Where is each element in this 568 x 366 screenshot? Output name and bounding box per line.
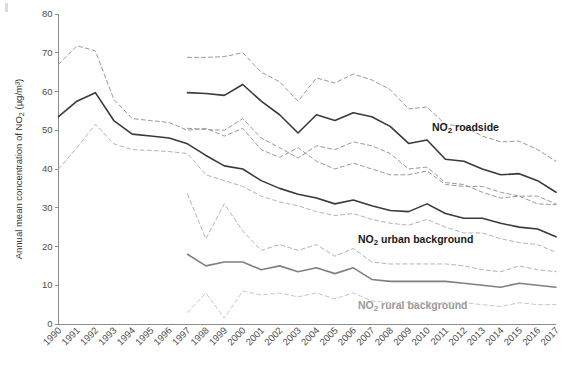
- x-tick-label-group: 2003: [280, 325, 303, 348]
- x-tick-label-group: 2016: [520, 325, 543, 348]
- series-line-no2-roadside-upper: [187, 53, 556, 162]
- x-tick-label-group: 2011: [428, 325, 450, 347]
- x-tick-label: 1990: [41, 325, 64, 348]
- x-tick-label-group: 2017: [538, 325, 561, 348]
- x-tick-label-group: 2004: [299, 325, 322, 348]
- x-tick-label-group: 2008: [372, 325, 395, 348]
- series-line-no2-urban-background-lower: [59, 124, 557, 252]
- series-line-no2-urban-background: [59, 93, 557, 237]
- x-tick-label-group: 2006: [336, 325, 359, 348]
- y-tick-label: 70: [42, 47, 53, 58]
- x-tick-label-group: 1993: [96, 325, 119, 348]
- x-tick-label-group: 2013: [464, 325, 487, 348]
- x-tick-label-group: 1998: [188, 325, 211, 348]
- x-tick-label: 1994: [114, 325, 137, 348]
- x-tick-label: 2011: [428, 325, 450, 347]
- y-tick-label: 80: [42, 8, 53, 19]
- x-tick-label: 2009: [391, 325, 414, 348]
- series-label-roadside: NO2 roadside: [432, 121, 499, 135]
- y-tick-label: 40: [42, 163, 53, 174]
- x-tick-label-group: 1999: [207, 325, 230, 348]
- x-tick-label-group: 2010: [409, 325, 432, 348]
- x-tick-label: 1991: [59, 325, 82, 348]
- y-tick-label: 10: [42, 279, 53, 290]
- x-tick-label: 2001: [243, 325, 266, 348]
- x-tick-label-group: 1990: [41, 325, 64, 348]
- x-tick-label: 2014: [483, 325, 506, 348]
- y-tick-label: 50: [42, 124, 53, 135]
- x-tick-label-group: 2000: [225, 325, 248, 348]
- chart-container: NO2 roadsideNO2 urban backgroundNO2 rura…: [0, 0, 568, 366]
- x-tick-label-group: 1995: [133, 325, 156, 348]
- y-tick-label: 60: [42, 86, 53, 97]
- x-tick-label: 2002: [262, 325, 285, 348]
- x-tick-label: 2008: [372, 325, 395, 348]
- x-tick-label: 1995: [133, 325, 156, 348]
- x-tick-label-group: 2015: [501, 325, 524, 348]
- x-tick-label: 2007: [354, 325, 377, 348]
- x-tick-label: 2004: [299, 325, 322, 348]
- x-tick-label-group: 1997: [170, 325, 193, 348]
- x-tick-label: 2015: [501, 325, 524, 348]
- x-tick-label: 1993: [96, 325, 119, 348]
- x-tick-label-group: 2007: [354, 325, 377, 348]
- series-layer: [59, 46, 557, 318]
- series-line-no2-roadside: [187, 85, 556, 193]
- x-tick-label: 1999: [207, 325, 230, 348]
- x-tick-label-group: 2002: [262, 325, 285, 348]
- x-tick-label: 1992: [78, 325, 101, 348]
- x-tick-label-group: 1991: [59, 325, 82, 348]
- x-tick-label-group: 2005: [317, 325, 340, 348]
- x-tick-label: 2006: [336, 325, 359, 348]
- axis-title-layer: Annual mean concentration of NO2 (µg/m³): [13, 79, 26, 260]
- x-tick-label-group: 2014: [483, 325, 506, 348]
- corner-artifact: [5, 3, 8, 12]
- y-axis-title: Annual mean concentration of NO2 (µg/m³): [13, 79, 26, 260]
- x-tick-label: 2012: [446, 325, 469, 348]
- no2-concentration-line-chart: NO2 roadsideNO2 urban backgroundNO2 rura…: [0, 0, 568, 366]
- x-tick-label-group: 1994: [114, 325, 137, 348]
- y-tick-label: 30: [42, 202, 53, 213]
- x-tick-label: 1998: [188, 325, 211, 348]
- x-tick-label-group: 2001: [243, 325, 266, 348]
- x-tick-label: 2017: [538, 325, 561, 348]
- x-tick-label: 2013: [464, 325, 487, 348]
- x-tick-label-group: 2012: [446, 325, 469, 348]
- x-tick-label: 1996: [151, 325, 174, 348]
- x-tick-label: 1997: [170, 325, 193, 348]
- x-tick-label: 2003: [280, 325, 303, 348]
- x-tick-label: 2016: [520, 325, 543, 348]
- x-tick-label-group: 1996: [151, 325, 174, 348]
- y-tick-label: 20: [42, 241, 53, 252]
- x-tick-label-group: 2009: [391, 325, 414, 348]
- series-label-urban-background: NO2 urban background: [358, 233, 473, 247]
- series-line-no2-rural-background: [187, 254, 556, 287]
- x-tick-label: 2005: [317, 325, 340, 348]
- x-tick-label: 2000: [225, 325, 248, 348]
- x-tick-label-group: 1992: [78, 325, 101, 348]
- x-tick-label: 2010: [409, 325, 432, 348]
